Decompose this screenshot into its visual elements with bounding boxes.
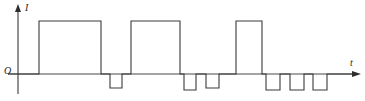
x-axis-arrowhead: [352, 71, 361, 77]
waveform-trace: [8, 21, 352, 90]
x-axis-label: t: [350, 58, 353, 68]
y-axis-arrowhead: [15, 4, 21, 12]
waveform-plot: [0, 0, 365, 101]
origin-label: O: [4, 66, 11, 76]
pulse-waveform-figure: I O t: [0, 0, 365, 101]
y-axis-label: I: [25, 3, 28, 13]
